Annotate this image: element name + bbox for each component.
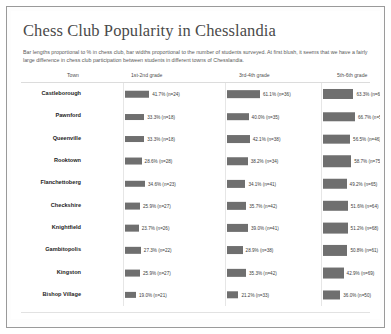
bar-cell-1: 27.3% (n=22) — [123, 239, 226, 261]
screenshot-frame: Chess Club Popularity in Chesslandia Bar… — [6, 6, 385, 328]
table-row: Checkshire25.9% (n=27)35.7% (n=42)51.6% … — [21, 195, 370, 217]
bar-cell-1: 19.0% (n=21) — [123, 284, 226, 306]
bar-value-label: 39.0% (n=41) — [251, 226, 279, 231]
row-label-town: Queenville — [53, 135, 81, 141]
row-label-town: Bishop Village — [43, 291, 81, 297]
table-row: Knightfield23.7% (n=26)39.0% (n=41)51.2%… — [21, 217, 370, 239]
bar — [227, 135, 250, 143]
bar-cell-1: 33.3% (n=18) — [123, 128, 226, 150]
bar — [323, 135, 350, 144]
bar-cell-1: 33.3% (n=18) — [123, 105, 226, 127]
bar — [323, 178, 347, 189]
bar-cell-1: 34.6% (n=23) — [123, 172, 226, 194]
bar-value-label: 63.3% (n=60) — [356, 92, 380, 97]
row-label-town: Flanchettoberg — [41, 179, 81, 185]
bar-value-label: 35.3% (n=42) — [249, 270, 277, 275]
bar-cell-1: 41.7% (n=24) — [123, 83, 226, 105]
chart-subtitle: Bar lengths proportional to % in chess c… — [23, 49, 368, 64]
bar — [227, 224, 248, 232]
bar-cell-1: 25.9% (n=27) — [123, 195, 226, 217]
bar-cell-2: 42.1% (n=38) — [225, 128, 322, 150]
bar-value-label: 49.2% (n=65) — [350, 181, 378, 186]
bar-cell-2: 39.0% (n=41) — [225, 217, 322, 239]
bar — [125, 269, 140, 276]
bar — [227, 90, 260, 98]
table-body: Castleborough41.7% (n=24)61.1% (n=36)63.… — [21, 83, 370, 306]
bar-cell-2: 21.2% (n=33) — [225, 284, 322, 306]
column-header-grade-1-2: 1st-2nd grade — [131, 72, 162, 78]
bar-cell-2: 34.1% (n=41) — [225, 172, 322, 194]
bar — [323, 201, 348, 211]
bar-value-label: 42.1% (n=38) — [253, 136, 281, 141]
bar — [227, 179, 245, 187]
bar-value-label: 56.5% (n=46) — [353, 136, 380, 141]
bar — [323, 223, 348, 234]
bar-value-label: 66.7% (n=54) — [358, 114, 380, 119]
bar-cell-3: 56.5% (n=46) — [321, 128, 380, 150]
table-row: Pawnford33.3% (n=18)40.0% (n=35)66.7% (n… — [21, 105, 370, 127]
bar-value-label: 25.9% (n=27) — [143, 203, 171, 208]
bar — [125, 247, 141, 253]
row-label-town: Gambitopolis — [45, 246, 81, 252]
chart-table: Town 1st-2nd grade 3rd-4th grade 5th-6th… — [21, 71, 370, 306]
row-label-town: Pawnford — [56, 112, 81, 118]
row-label-town: Kingston — [57, 269, 81, 275]
bar-cell-3: 36.0% (n=50) — [321, 284, 380, 306]
bar — [125, 136, 144, 142]
bar-cell-3: 51.6% (n=64) — [321, 195, 380, 217]
bar — [227, 202, 246, 210]
bar-value-label: 41.7% (n=24) — [152, 92, 180, 97]
bar-cell-2: 35.7% (n=42) — [225, 195, 322, 217]
chart-card: Chess Club Popularity in Chesslandia Bar… — [11, 11, 380, 319]
bar-value-label: 38.2% (n=34) — [251, 159, 279, 164]
bar-cell-3: 51.2% (n=68) — [321, 217, 380, 239]
bar — [323, 290, 340, 299]
bar — [125, 180, 145, 186]
bar-value-label: 58.7% (n=75) — [354, 159, 380, 164]
bar-value-label: 42.9% (n=69) — [347, 270, 375, 275]
bar-value-label: 33.3% (n=18) — [147, 114, 175, 119]
bar-value-label: 51.2% (n=68) — [351, 226, 379, 231]
bar-value-label: 33.3% (n=18) — [147, 136, 175, 141]
bar-cell-3: 42.9% (n=69) — [321, 262, 380, 284]
bar — [227, 113, 249, 121]
bar — [125, 91, 149, 98]
bar-value-label: 40.0% (n=35) — [252, 114, 280, 119]
bar — [227, 246, 243, 254]
table-header-row: Town 1st-2nd grade 3rd-4th grade 5th-6th… — [21, 71, 370, 83]
bar — [323, 245, 347, 255]
bar-value-label: 34.1% (n=41) — [248, 181, 276, 186]
bar — [125, 114, 144, 120]
bar — [227, 269, 246, 277]
bar-value-label: 34.6% (n=23) — [148, 181, 176, 186]
row-label-town: Rooktown — [54, 157, 81, 163]
column-header-town: Town — [67, 72, 79, 78]
row-label-town: Checkshire — [51, 202, 81, 208]
bar-value-label: 23.7% (n=26) — [142, 226, 170, 231]
bar-cell-3: 58.7% (n=75) — [321, 150, 380, 172]
bar-cell-3: 50.8% (n=61) — [321, 239, 380, 261]
bar-cell-3: 63.3% (n=60) — [321, 83, 380, 105]
bar-value-label: 36.0% (n=50) — [343, 293, 371, 298]
table-row: Gambitopolis27.3% (n=22)28.9% (n=38)50.8… — [21, 239, 370, 261]
bar-cell-2: 61.1% (n=36) — [225, 83, 322, 105]
bar-value-label: 27.3% (n=22) — [144, 248, 172, 253]
bar — [125, 292, 136, 298]
bar-value-label: 21.2% (n=33) — [241, 293, 269, 298]
row-label-town: Knightfield — [52, 224, 81, 230]
bar-value-label: 51.6% (n=64) — [351, 203, 379, 208]
table-row: Queenville33.3% (n=18)42.1% (n=38)56.5% … — [21, 128, 370, 150]
bar-value-label: 28.6% (n=28) — [145, 159, 173, 164]
bar-value-label: 35.7% (n=42) — [249, 203, 277, 208]
bar — [125, 202, 140, 209]
bar — [227, 291, 238, 298]
row-label-town: Castleborough — [42, 90, 81, 96]
bar — [227, 157, 248, 165]
column-header-grade-3-4: 3rd-4th grade — [239, 72, 270, 78]
bar-cell-2: 40.0% (n=35) — [225, 105, 322, 127]
bar-cell-3: 66.7% (n=54) — [321, 105, 380, 127]
bar-value-label: 61.1% (n=36) — [263, 92, 291, 97]
bar — [125, 225, 139, 232]
column-header-grade-5-6: 5th-6th grade — [337, 72, 367, 78]
bar-value-label: 50.8% (n=61) — [350, 248, 378, 253]
